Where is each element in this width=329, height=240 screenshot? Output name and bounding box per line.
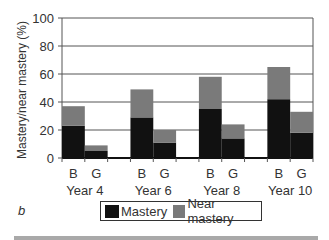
near-mastery-swatch-icon [173, 205, 185, 218]
y-tick-label: 100 [32, 11, 54, 26]
legend-item-near-mastery: Near mastery [173, 196, 255, 226]
bar-mastery [267, 99, 290, 158]
legend-item-mastery: Mastery [105, 204, 167, 219]
x-sub-label: G [297, 166, 307, 181]
bar-near-mastery [153, 130, 176, 143]
legend-label-near-mastery: Near mastery [187, 196, 255, 226]
bar-mastery [85, 151, 108, 158]
y-tick-label: 40 [40, 95, 54, 110]
y-axis-label: Mastery/near mastery (%) [15, 21, 29, 159]
bar-near-mastery [199, 77, 222, 109]
x-group-label: Year 6 [135, 183, 172, 198]
bar-mastery [199, 109, 222, 158]
bar-near-mastery [85, 145, 108, 151]
bottom-divider [14, 236, 318, 240]
y-tick-label: 80 [40, 39, 54, 54]
x-sub-label: G [160, 166, 170, 181]
bar-mastery [62, 126, 85, 158]
x-sub-label: B [69, 166, 78, 181]
legend: Mastery Near mastery [100, 201, 262, 221]
x-sub-label: B [138, 166, 147, 181]
bar-near-mastery [290, 112, 313, 133]
panel-label: b [18, 203, 25, 218]
y-tick-label: 60 [40, 67, 54, 82]
x-group-label: Year 4 [66, 183, 103, 198]
bar-near-mastery [267, 67, 290, 99]
y-tick-label: 20 [40, 123, 54, 138]
x-sub-label: B [274, 166, 283, 181]
x-sub-label: B [206, 166, 215, 181]
mastery-swatch-icon [105, 205, 119, 218]
bar-near-mastery [222, 124, 245, 138]
bar-mastery [290, 133, 313, 158]
x-group-label: Year 10 [268, 183, 312, 198]
bar-near-mastery [130, 89, 153, 117]
x-sub-label: G [228, 166, 238, 181]
bar-mastery [153, 143, 176, 158]
x-sub-label: G [91, 166, 101, 181]
legend-label-mastery: Mastery [121, 204, 167, 219]
y-tick-label: 0 [47, 151, 54, 166]
stacked-bar-chart: 020406080100BGBGBGBGYear 4Year 6Year 8Ye… [0, 0, 329, 200]
bar-mastery [222, 138, 245, 158]
bar-near-mastery [62, 106, 85, 126]
bar-mastery [130, 117, 153, 158]
